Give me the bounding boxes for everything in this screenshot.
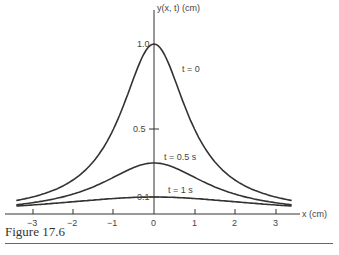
curve-label-t05: t = 0.5 s	[164, 152, 196, 162]
curve-label-t1: t = 1 s	[168, 185, 193, 195]
figure-caption: Figure 17.6	[5, 224, 65, 240]
y-tick-label-05: 0.5	[133, 124, 146, 134]
y-tick-label-1: 1.0	[137, 39, 150, 49]
chart-plot	[0, 0, 339, 255]
x-axis-label: x (cm)	[302, 209, 327, 219]
x-tick-label: 0	[151, 218, 156, 228]
x-tick-label: −2	[67, 218, 77, 228]
x-tick-label: 2	[232, 218, 237, 228]
curve-label-t0: t = 0	[182, 64, 200, 74]
x-tick-label: 3	[273, 218, 278, 228]
caption-divider	[5, 243, 333, 244]
x-tick-label: −1	[107, 218, 117, 228]
y-axis-label: y(x, t) (cm)	[157, 3, 200, 13]
x-tick-label: 1	[192, 218, 197, 228]
y-tick-label-01: 0.1	[137, 192, 150, 202]
